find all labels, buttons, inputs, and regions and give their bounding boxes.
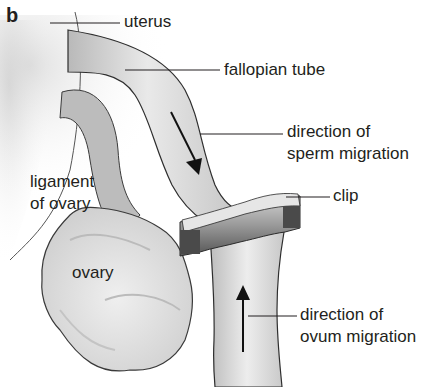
label-ovum-direction-line2: ovum migration [300, 327, 416, 347]
label-ovum-direction-line1: direction of [300, 305, 383, 325]
label-uterus: uterus [124, 12, 171, 32]
label-sperm-direction-line1: direction of [287, 122, 370, 142]
label-clip: clip [333, 186, 359, 206]
panel-label: b [6, 4, 18, 27]
label-fallopian-tube: fallopian tube [224, 60, 325, 80]
ovary-shape [42, 207, 193, 371]
lower-tube-shape [210, 232, 284, 387]
label-ligament-line1: ligament [30, 172, 94, 192]
tubal-ligation-diagram: b uterus fallopian tube direction of spe… [0, 0, 443, 387]
label-ligament-line2: of ovary [30, 194, 90, 214]
label-ovary: ovary [72, 263, 114, 283]
label-sperm-direction-line2: sperm migration [287, 144, 409, 164]
